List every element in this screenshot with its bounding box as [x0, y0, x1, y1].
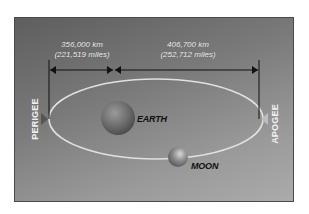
apogee-distance-miles: (252,712 miles): [160, 50, 215, 60]
perigee-marker-icon: [41, 113, 48, 125]
perigee-distance-label: 356,000 km (221,519 miles): [54, 40, 109, 60]
perigee-distance-arrow: [50, 66, 113, 74]
apogee-distance-arrow: [115, 66, 258, 74]
apogee-label: APOGEE: [270, 104, 280, 144]
moon-icon: [168, 147, 188, 167]
perigee-distance-km: 356,000 km: [54, 40, 109, 50]
earth-label: EARTH: [137, 114, 167, 124]
apogee-distance-km: 406,700 km: [160, 40, 215, 50]
perigee-label: PERIGEE: [30, 98, 40, 139]
perigee-distance-miles: (221,519 miles): [54, 50, 109, 60]
moon-label: MOON: [191, 161, 218, 171]
orbit-diagram: [0, 0, 309, 214]
earth-icon: [101, 101, 135, 135]
apogee-distance-label: 406,700 km (252,712 miles): [160, 40, 215, 60]
